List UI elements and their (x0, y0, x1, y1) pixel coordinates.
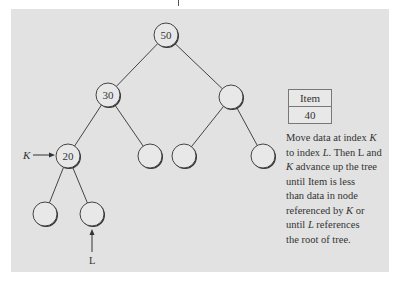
node-llr (80, 202, 105, 227)
node-ll-label: 20 (63, 150, 75, 162)
desc-text: . Then L and (329, 147, 382, 158)
node-lll (33, 202, 58, 227)
desc-text: until (286, 219, 308, 230)
desc-k: K (346, 205, 353, 216)
desc-text: Move data at index (286, 132, 369, 143)
desc-text: references (314, 219, 360, 230)
desc-text: the root of tree. (286, 234, 351, 245)
node-lr (138, 144, 163, 169)
desc-k: K (286, 161, 293, 172)
desc-text: to index (286, 147, 323, 158)
desc-text: or (353, 205, 364, 216)
item-box: Item 40 (288, 89, 332, 124)
desc-text: than data in node (286, 190, 358, 201)
desc-text: advance up the tree (293, 161, 377, 172)
node-left-label: 30 (103, 89, 115, 101)
node-root-label: 50 (161, 29, 173, 41)
tree-nodes (33, 23, 276, 227)
item-header: Item (289, 90, 331, 107)
desc-k: K (369, 132, 376, 143)
desc-text: until Item is less (286, 176, 355, 187)
item-value: 40 (289, 107, 331, 123)
l-pointer-label: L (89, 255, 95, 266)
node-rr (251, 144, 276, 169)
tree-edges (45, 35, 263, 214)
k-pointer-label: K (23, 149, 30, 161)
k-arrow (33, 153, 55, 158)
node-rl (172, 144, 197, 169)
l-arrow (90, 229, 95, 252)
desc-text: referenced by (286, 205, 346, 216)
node-right (219, 85, 244, 110)
description-text: Move data at index K to index L. Then L … (286, 131, 386, 247)
